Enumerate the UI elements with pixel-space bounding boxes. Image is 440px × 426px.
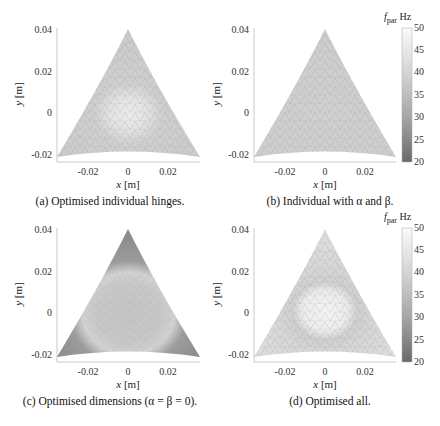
xtick: -0.02 xyxy=(68,166,108,177)
colorbar-tick: 50 xyxy=(414,222,424,233)
colorbar-tick: 40 xyxy=(414,266,424,277)
xtick: 0 xyxy=(108,166,148,177)
caption: (d) Optimised all. xyxy=(220,395,440,407)
xtick: -0.02 xyxy=(68,366,108,377)
ytick: -0.02 xyxy=(219,149,249,160)
xtick: -0.02 xyxy=(265,366,305,377)
xtick: 0 xyxy=(108,366,148,377)
xtick: 0.02 xyxy=(345,366,385,377)
y-axis-label: y [m] xyxy=(210,74,222,114)
xtick: 0.02 xyxy=(148,366,188,377)
ytick: 0 xyxy=(22,307,52,318)
ytick: -0.02 xyxy=(22,149,52,160)
colorbar-tick: 45 xyxy=(414,244,424,255)
xtick: -0.02 xyxy=(265,166,305,177)
ytick: 0.02 xyxy=(219,266,249,277)
x-axis-label: x [m] xyxy=(98,178,158,190)
colorbar-tick: 25 xyxy=(414,334,424,345)
ytick: -0.02 xyxy=(22,349,52,360)
caption: (c) Optimised dimensions (α = β = 0). xyxy=(0,395,220,407)
x-axis-label: x [m] xyxy=(98,378,158,390)
panel-a: 0.04 0.02 0 -0.02 -0.02 0 0.02 y [m] x [… xyxy=(0,0,220,213)
ytick: 0 xyxy=(219,307,249,318)
colorbar-tick: 30 xyxy=(414,311,424,322)
xtick: 0.02 xyxy=(148,166,188,177)
ytick: 0.02 xyxy=(22,266,52,277)
ytick: 0 xyxy=(219,107,249,118)
x-axis-label: x [m] xyxy=(295,178,355,190)
colorbar-tick: 40 xyxy=(414,66,424,77)
xtick: 0.02 xyxy=(345,166,385,177)
colorbar-tick: 35 xyxy=(414,289,424,300)
ytick: 0.04 xyxy=(219,224,249,235)
colorbar-title: fpar Hz xyxy=(384,211,411,225)
colorbar-tick: 20 xyxy=(414,356,424,367)
ytick: 0 xyxy=(22,107,52,118)
colorbar xyxy=(402,28,412,162)
colorbar-title: fpar Hz xyxy=(384,11,411,25)
colorbar-tick: 50 xyxy=(414,22,424,33)
panel-c: 0.04 0.02 0 -0.02 -0.02 0 0.02 y [m] x [… xyxy=(0,200,220,413)
ytick: 0.02 xyxy=(219,66,249,77)
ytick: 0.04 xyxy=(22,224,52,235)
ytick: 0.02 xyxy=(22,66,52,77)
ytick: -0.02 xyxy=(219,349,249,360)
panel-d: 0.04 0.02 0 -0.02 -0.02 0 0.02 y [m] x [… xyxy=(220,200,440,413)
xtick: 0 xyxy=(305,166,345,177)
xtick: 0 xyxy=(305,366,345,377)
colorbar-tick: 30 xyxy=(414,111,424,122)
x-axis-label: x [m] xyxy=(295,378,355,390)
ytick: 0.04 xyxy=(219,24,249,35)
y-axis-label: y [m] xyxy=(210,274,222,314)
ytick: 0.04 xyxy=(22,24,52,35)
colorbar-tick: 45 xyxy=(414,44,424,55)
y-axis-label: y [m] xyxy=(12,274,24,314)
y-axis-label: y [m] xyxy=(12,74,24,114)
colorbar-tick: 35 xyxy=(414,89,424,100)
colorbar xyxy=(402,228,412,362)
panel-b: 0.04 0.02 0 -0.02 -0.02 0 0.02 y [m] x [… xyxy=(220,0,440,213)
colorbar-tick: 25 xyxy=(414,134,424,145)
colorbar-tick: 20 xyxy=(414,156,424,167)
